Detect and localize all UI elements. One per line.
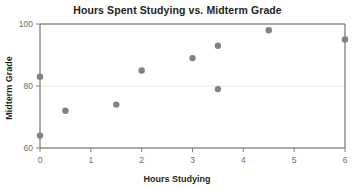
x-tick-label: 3 [190, 155, 195, 165]
data-point [189, 55, 195, 61]
x-tick-label: 4 [241, 155, 246, 165]
data-point [113, 101, 119, 107]
x-axis-title: Hours Studying [144, 174, 211, 184]
x-axis-ticks: 0123456 [38, 148, 348, 165]
data-point [215, 43, 221, 49]
y-tick-label: 80 [24, 81, 34, 91]
data-point [342, 36, 348, 42]
data-point [37, 132, 43, 138]
data-point [266, 27, 272, 33]
x-tick-label: 0 [38, 155, 43, 165]
x-tick-label: 2 [139, 155, 144, 165]
data-point [62, 108, 68, 114]
y-tick-label: 100 [19, 19, 33, 29]
scatter-chart: Hours Spent Studying vs. Midterm Grade 0… [0, 0, 355, 189]
y-axis-title: Midterm Grade [4, 56, 14, 120]
y-tick-label: 60 [24, 143, 34, 153]
x-tick-label: 1 [88, 155, 93, 165]
plot-area: 0123456 6080100 Hours Studying Midterm G… [0, 0, 355, 189]
data-point [138, 67, 144, 73]
data-point [215, 86, 221, 92]
data-point [37, 74, 43, 80]
data-points [37, 27, 348, 139]
y-axis-ticks: 6080100 [19, 19, 40, 153]
x-tick-label: 6 [343, 155, 348, 165]
x-tick-label: 5 [292, 155, 297, 165]
